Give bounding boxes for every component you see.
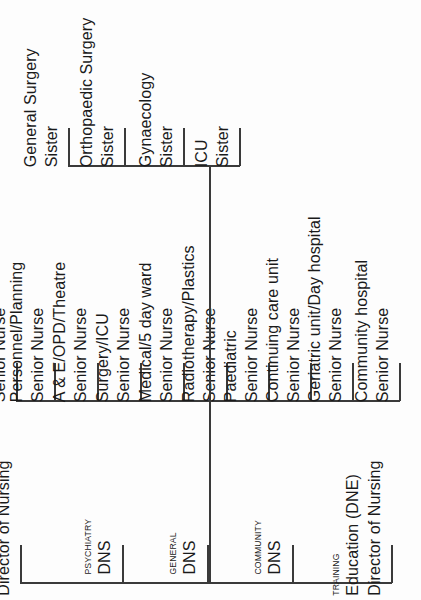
node-root-0[interactable]: Director of Nursing Services (DNS) MIDWI… — [0, 460, 14, 595]
node-sister-0[interactable]: Sister General Surgery — [20, 48, 62, 167]
node-sister-3-line1: Sister — [212, 126, 233, 168]
node-senior-nurse-6-line1: Senior Nurse — [241, 308, 262, 403]
node-senior-nurse-3[interactable]: Senior Nurse Surgery/ICU — [92, 308, 134, 403]
node-senior-nurse-1-line1: Senior Nurse — [27, 262, 48, 403]
node-senior-nurse-2[interactable]: Senior Nurse A & E/OPD/Theatre — [49, 262, 91, 402]
root-stub-3 — [292, 545, 294, 583]
node-senior-nurse-6-line2: Paediatric — [220, 308, 241, 403]
node-senior-nurse-4-line1: Senior Nurse — [156, 263, 177, 403]
node-senior-nurse-7[interactable]: Senior Nurse Continuing care unit — [262, 258, 304, 402]
node-senior-nurse-6[interactable]: Senior Nurse Paediatric — [220, 308, 262, 403]
node-senior-nurse-4[interactable]: Senior Nurse Medical/5 day ward — [135, 263, 177, 403]
senior-nurse-stub-9 — [399, 363, 401, 401]
node-senior-nurse-5-line2: Radiotherapy/Plastics — [178, 245, 199, 402]
org-chart-canvas: Director of Nursing Services (DNS) MIDWI… — [0, 0, 421, 600]
node-root-0-line1: Director of Nursing — [0, 460, 14, 595]
node-senior-nurse-2-line1: Senior Nurse — [70, 262, 91, 402]
node-sister-1[interactable]: Sister Orthopaedic Surgery — [76, 18, 118, 168]
node-root-3[interactable]: DNS COMMUNITY — [253, 520, 286, 574]
node-senior-nurse-7-line1: Senior Nurse — [283, 258, 304, 402]
node-senior-nurse-8-line1: Senior Nurse — [325, 216, 346, 402]
node-root-1[interactable]: DNS PSYCHIATRY — [83, 519, 116, 575]
node-root-4-line3: TRAINING — [331, 460, 342, 595]
node-root-3-line1: DNS — [265, 520, 286, 574]
node-senior-nurse-9-line2: Community hospital — [351, 260, 372, 402]
node-root-4[interactable]: Director of Nursing Education (DNE) TRAI… — [331, 460, 385, 595]
node-root-4-line2: Education (DNE) — [343, 460, 364, 595]
node-sister-2-line2: Gynaecology — [135, 73, 156, 168]
node-root-2-line1: DNS — [180, 532, 201, 574]
node-sister-2-line1: Sister — [156, 73, 177, 168]
node-senior-nurse-3-line1: Senior Nurse — [113, 308, 134, 403]
node-senior-nurse-5[interactable]: Senior Nurse Radiotherapy/Plastics — [178, 245, 220, 402]
trunk-sister-to-senior — [209, 165, 211, 401]
node-senior-nurse-9[interactable]: Senior Nurse Community hospital — [351, 260, 393, 402]
node-sister-1-line1: Sister — [97, 18, 118, 168]
sister-stub-1 — [124, 128, 126, 166]
node-senior-nurse-4-line2: Medical/5 day ward — [135, 263, 156, 403]
trunk-senior-to-root — [209, 400, 211, 583]
node-senior-nurse-3-line2: Surgery/ICU — [92, 308, 113, 403]
node-sister-0-line1: Sister — [41, 48, 62, 167]
node-sister-1-line2: Orthopaedic Surgery — [76, 18, 97, 168]
node-root-3-line2: COMMUNITY — [253, 520, 264, 574]
sister-stub-3 — [239, 128, 241, 166]
node-root-1-line2: PSYCHIATRY — [83, 519, 94, 575]
node-senior-nurse-9-line1: Senior Nurse — [372, 260, 393, 402]
sister-stub-0 — [68, 128, 70, 166]
root-stub-4 — [391, 545, 393, 583]
node-root-2[interactable]: DNS GENERAL — [168, 532, 201, 574]
node-root-2-line2: GENERAL — [168, 532, 179, 574]
node-sister-2[interactable]: Sister Gynaecology — [135, 73, 177, 168]
node-root-4-line1: Director of Nursing — [364, 460, 385, 595]
node-sister-3[interactable]: Sister ICU — [191, 126, 233, 168]
node-senior-nurse-1-line2: Personnel/Planning — [6, 262, 27, 403]
node-senior-nurse-7-line2: Continuing care unit — [262, 258, 283, 402]
node-senior-nurse-8-line2: Geriatric unit/Day hospital — [304, 216, 325, 402]
node-root-1-line1: DNS — [95, 519, 116, 575]
root-stub-1 — [122, 545, 124, 583]
node-senior-nurse-1[interactable]: Senior Nurse Personnel/Planning — [6, 262, 48, 403]
root-stub-0 — [20, 545, 22, 583]
sister-stub-2 — [183, 128, 185, 166]
node-senior-nurse-8[interactable]: Senior Nurse Geriatric unit/Day hospital — [304, 216, 346, 402]
node-sister-3-line2: ICU — [191, 126, 212, 168]
node-senior-nurse-2-line2: A & E/OPD/Theatre — [49, 262, 70, 402]
node-sister-0-line2: General Surgery — [20, 48, 41, 167]
